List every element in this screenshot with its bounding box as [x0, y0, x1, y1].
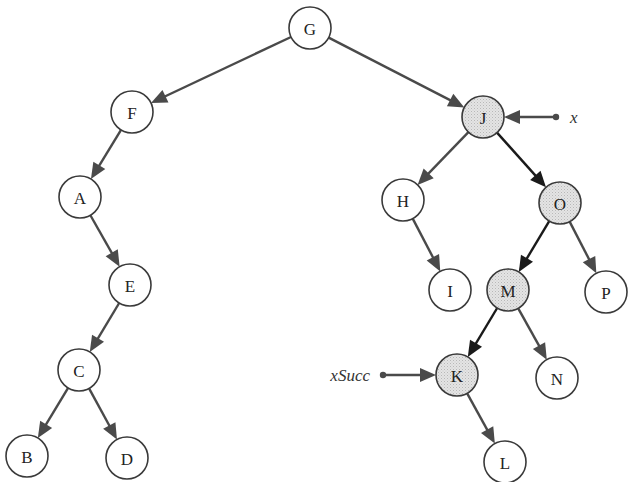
tree-node-O: O: [539, 182, 581, 224]
tree-node-C: C: [58, 349, 100, 391]
arrowhead-icon: [468, 340, 482, 357]
tree-node-G: G: [289, 7, 331, 49]
tree-node-D: D: [106, 437, 148, 479]
tree-node-L: L: [484, 441, 526, 482]
tree-node-F: F: [111, 91, 153, 133]
node-label: N: [551, 370, 563, 389]
node-label: B: [21, 448, 32, 467]
tree-node-B: B: [6, 435, 48, 477]
pointer-xSucc: xSucc: [329, 366, 436, 385]
tree-node-J: J: [462, 96, 504, 138]
edge-F-A: [91, 130, 121, 179]
edge-C-B: [38, 388, 68, 438]
tree-node-M: M: [487, 269, 529, 311]
arrowhead-icon: [519, 255, 533, 272]
edge-G-F: [151, 37, 291, 103]
node-label: G: [304, 20, 316, 39]
edge-K-L: [467, 393, 495, 443]
edge-O-M: [519, 221, 549, 272]
edge-G-J: [329, 38, 465, 108]
edge-O-P: [570, 222, 597, 274]
arrowhead-icon: [38, 421, 52, 438]
edge-H-I: [413, 219, 441, 272]
arrowhead-icon: [504, 110, 520, 124]
tree-node-E: E: [109, 264, 151, 306]
node-label: L: [500, 454, 510, 473]
edge-A-E: [90, 215, 119, 266]
pointer-x: x: [504, 108, 578, 127]
tree-node-A: A: [59, 176, 101, 218]
node-label: K: [451, 367, 464, 386]
edge-M-K: [468, 308, 497, 357]
tree-node-N: N: [536, 357, 578, 399]
tree-node-H: H: [382, 179, 424, 221]
node-label: O: [554, 195, 566, 214]
edge-C-D: [89, 388, 117, 439]
node-label: J: [480, 109, 487, 128]
node-label: C: [73, 362, 84, 381]
node-label: A: [74, 189, 87, 208]
node-label: F: [127, 104, 136, 123]
arrowhead-icon: [106, 249, 120, 266]
pointer-label: xSucc: [329, 366, 370, 385]
tree-node-P: P: [585, 271, 627, 313]
edge-M-N: [518, 308, 547, 359]
arrowhead-icon: [90, 335, 104, 352]
tree-node-K: K: [436, 354, 478, 396]
edge-J-H: [418, 132, 469, 185]
bst-diagram: xxSucc GFJAHOEIMPCKNBDL: [0, 0, 633, 482]
node-label: I: [447, 282, 453, 301]
node-label: H: [397, 192, 409, 211]
node-label: E: [125, 277, 135, 296]
arrowhead-icon: [91, 162, 105, 179]
arrowhead-icon: [420, 368, 436, 382]
node-label: P: [601, 284, 610, 303]
pointer-label: x: [569, 108, 578, 127]
tree-node-I: I: [429, 269, 471, 311]
node-label: D: [121, 450, 133, 469]
edge-E-C: [90, 303, 119, 352]
node-label: M: [500, 282, 515, 301]
edge-J-O: [497, 133, 546, 188]
